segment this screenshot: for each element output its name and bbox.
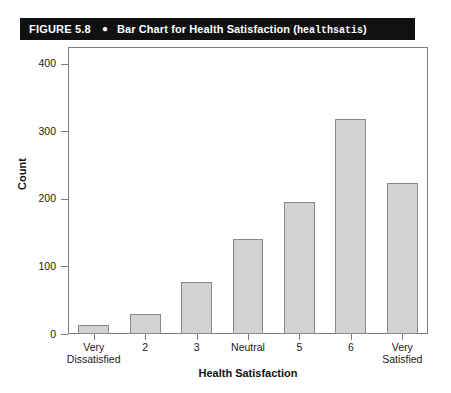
figure-number: FIGURE 5.8 [29, 23, 91, 35]
figure-variable-name: healthsatis [297, 25, 363, 36]
y-axis-tick [61, 131, 68, 132]
figure-title: Bar Chart for Health Satisfaction (healt… [117, 23, 367, 36]
bar [335, 119, 366, 334]
y-axis-tick-label: 300 [20, 126, 56, 137]
x-axis-title: Health Satisfaction [68, 367, 428, 379]
figure-title-text: Bar Chart for Health Satisfaction ( [117, 23, 297, 35]
x-axis-tick [248, 334, 249, 340]
x-axis-tick [351, 334, 352, 340]
figure-caption-bar: FIGURE 5.8 ● Bar Chart for Health Satisf… [20, 18, 415, 40]
y-axis-tick [61, 334, 68, 335]
bar [181, 282, 212, 334]
bar [130, 314, 161, 334]
x-axis-tick [197, 334, 198, 340]
x-axis-tick [94, 334, 95, 340]
y-axis-tick-label: 100 [20, 261, 56, 272]
bar [233, 239, 264, 334]
x-axis-tick [145, 334, 146, 340]
bar [284, 202, 315, 334]
y-axis-tick [61, 266, 68, 267]
x-axis-tick [299, 334, 300, 340]
bar-chart: Count 0100200300400 Very Dissatisfied23N… [0, 40, 451, 393]
y-axis-tick-label: 400 [20, 58, 56, 69]
x-axis-tick [402, 334, 403, 340]
y-axis-tick-label: 0 [20, 329, 56, 340]
bullet-icon: ● [102, 24, 108, 34]
y-axis-tick [61, 64, 68, 65]
y-axis-tick [61, 199, 68, 200]
x-axis-tick-label: Very Satisfied [371, 342, 434, 365]
bar [387, 183, 418, 334]
figure-title-close: ) [363, 23, 367, 35]
y-axis-tick-label: 200 [20, 193, 56, 204]
bar [78, 325, 109, 334]
